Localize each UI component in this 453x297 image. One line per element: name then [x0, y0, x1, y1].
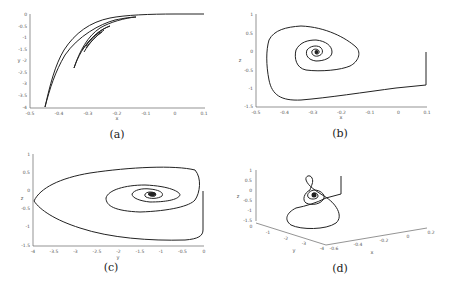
svg-text:-0.3: -0.3	[309, 110, 318, 115]
trajectory-curve	[34, 167, 203, 240]
x-axis-label: x	[116, 115, 119, 121]
svg-text:0: 0	[250, 49, 253, 54]
svg-text:0.1: 0.1	[200, 111, 207, 116]
svg-text:-3: -3	[23, 81, 28, 86]
svg-text:-3: -3	[73, 249, 78, 254]
chart-a-plot: 0 -0.5 -1 -1.5 -2 -2.5 -3 -3.5 -4 -0.5 -…	[0, 0, 226, 148]
trajectory-curve	[287, 176, 341, 229]
focus-point	[315, 50, 319, 54]
svg-text:-1: -1	[159, 249, 164, 254]
svg-text:-0.1: -0.1	[142, 111, 151, 116]
svg-text:-1: -1	[248, 208, 253, 213]
svg-text:0: 0	[250, 224, 253, 229]
svg-text:0: 0	[407, 234, 410, 239]
x-ticks: -0.6 -0.4 -0.2 0 0.2	[330, 230, 435, 251]
svg-text:-1.5: -1.5	[244, 104, 253, 109]
svg-text:-0.5: -0.5	[178, 249, 187, 254]
svg-text:0: 0	[249, 188, 252, 193]
chart-panel-d: 1 0.5 0 -0.5 -1 -1.5 0 -1 -2 -3 -4 y -0.…	[226, 148, 453, 297]
y-axis-label: z	[21, 195, 24, 201]
svg-text:-1.5: -1.5	[18, 47, 27, 52]
svg-text:-0.4: -0.4	[55, 111, 64, 116]
svg-text:-1: -1	[266, 230, 271, 235]
svg-text:1: 1	[250, 12, 253, 17]
svg-text:-0.5: -0.5	[244, 68, 253, 73]
svg-text:0.5: 0.5	[23, 170, 30, 175]
svg-text:-3: -3	[302, 241, 307, 246]
svg-text:-0.5: -0.5	[243, 198, 252, 203]
svg-text:-0.4: -0.4	[280, 110, 289, 115]
caption-d: (d)	[325, 262, 355, 275]
svg-text:-1.5: -1.5	[21, 243, 30, 248]
svg-text:0: 0	[24, 12, 27, 17]
svg-text:1: 1	[249, 168, 252, 173]
svg-text:-1: -1	[23, 35, 28, 40]
svg-text:-1: -1	[26, 224, 31, 229]
svg-text:-3.5: -3.5	[50, 249, 59, 254]
focus-point	[148, 192, 156, 196]
svg-text:-4: -4	[23, 105, 28, 110]
svg-text:-0.4: -0.4	[354, 242, 363, 247]
z-axis-label: z	[237, 193, 240, 199]
caption-a: (a)	[102, 128, 132, 141]
svg-text:-1.5: -1.5	[243, 218, 252, 223]
svg-text:-3.5: -3.5	[18, 93, 27, 98]
trajectory-curve	[267, 26, 426, 100]
svg-text:1: 1	[27, 152, 30, 157]
svg-text:-0.5: -0.5	[21, 206, 30, 211]
x-axis-label: x	[340, 114, 343, 120]
y-axis-label: y	[18, 57, 21, 64]
trajectory-curve	[45, 14, 204, 107]
svg-text:-0.5: -0.5	[26, 111, 35, 116]
chart-panel-b: 1 0.5 0 -0.5 -1 -1.5 -0.5 -0.4 -0.3 -0.2…	[226, 0, 453, 148]
y-axis-label: z	[239, 57, 242, 63]
svg-text:0: 0	[27, 188, 30, 193]
svg-text:-0.2: -0.2	[380, 238, 389, 243]
caption-b: (b)	[325, 127, 355, 140]
svg-text:0: 0	[203, 249, 206, 254]
svg-text:-4: -4	[31, 249, 36, 254]
svg-text:-0.1: -0.1	[366, 110, 375, 115]
chart-panel-a: 0 -0.5 -1 -1.5 -2 -2.5 -3 -3.5 -4 -0.5 -…	[0, 0, 226, 148]
svg-text:0.2: 0.2	[427, 230, 434, 235]
x-axis	[326, 228, 427, 245]
svg-text:-2: -2	[23, 58, 28, 63]
svg-text:-2.5: -2.5	[18, 70, 27, 75]
z-ticks: 1 0.5 0 -0.5 -1 -1.5	[243, 168, 252, 223]
svg-text:-1: -1	[249, 86, 254, 91]
svg-text:-0.6: -0.6	[330, 246, 339, 251]
svg-text:0: 0	[397, 110, 400, 115]
chart-c-plot: 1 0.5 0 -0.5 -1 -1.5 -4 -3.5 -3 -2.5 -2 …	[0, 148, 226, 297]
svg-text:-2.5: -2.5	[93, 249, 102, 254]
y-axis-label: y	[293, 247, 296, 254]
svg-text:0.5: 0.5	[246, 31, 253, 36]
svg-text:0.5: 0.5	[245, 178, 252, 183]
x-axis-label: x	[371, 249, 374, 255]
chart-b-plot: 1 0.5 0 -0.5 -1 -1.5 -0.5 -0.4 -0.3 -0.2…	[226, 0, 453, 148]
svg-text:-2: -2	[284, 236, 289, 241]
chart-panel-c: 1 0.5 0 -0.5 -1 -1.5 -4 -3.5 -3 -2.5 -2 …	[0, 148, 226, 297]
svg-text:0.1: 0.1	[423, 110, 430, 115]
caption-c: (c)	[96, 261, 126, 274]
x-axis-label: y	[117, 254, 120, 261]
svg-text:-0.5: -0.5	[18, 24, 27, 29]
svg-text:0: 0	[174, 111, 177, 116]
y-ticks: 1 0.5 0 -0.5 -1 -1.5	[244, 12, 253, 109]
svg-text:-4: -4	[320, 246, 325, 251]
svg-text:-0.5: -0.5	[252, 110, 261, 115]
focus-point	[312, 193, 317, 198]
svg-text:-1.5: -1.5	[136, 249, 145, 254]
svg-text:-0.3: -0.3	[84, 111, 93, 116]
